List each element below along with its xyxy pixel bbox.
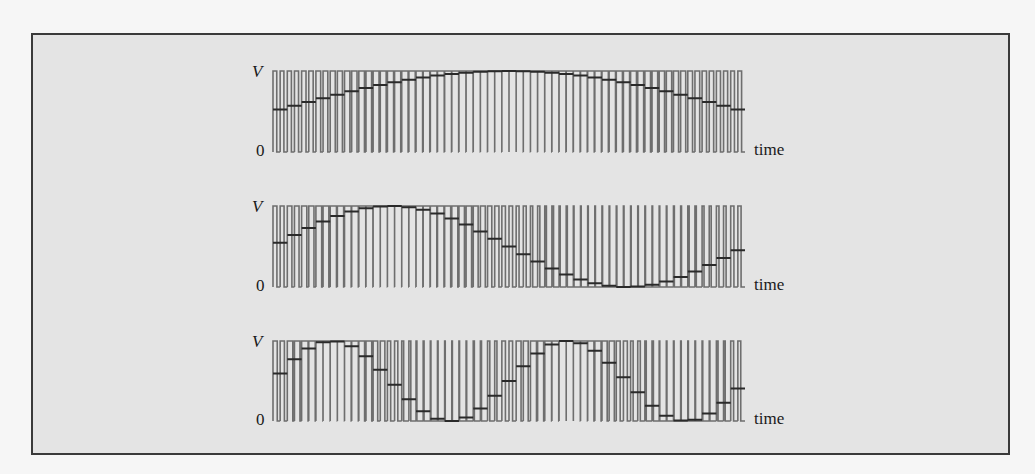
pwm-plot-3 — [0, 0, 1035, 474]
